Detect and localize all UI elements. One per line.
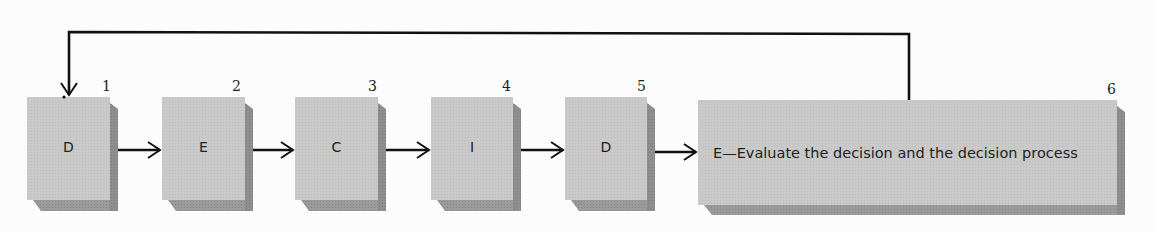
connectors [0,0,1155,232]
arrow-2-to-3 [253,142,293,158]
arrow-1-to-2 [118,142,160,158]
feedback-arrow-6-to-1 [61,32,909,100]
arrow-3-to-4 [386,142,429,158]
dot-mark [62,95,65,98]
arrow-4-to-5 [521,142,563,158]
decision-process-diagram: D 1 E 2 C 3 I 4 D 5 E—Evaluate the [0,0,1155,232]
arrow-5-to-6 [655,144,696,160]
